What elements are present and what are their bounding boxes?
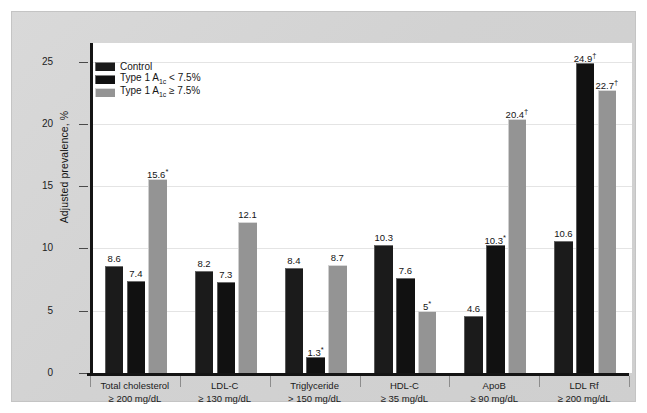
bar-value-label: 15.6*	[139, 167, 176, 180]
x-axis-category-label: ApoB≥ 90 mg/dL	[449, 380, 539, 405]
bar-control	[105, 266, 124, 373]
x-axis-category-label: LDL Rf≥ 200 mg/dL	[539, 380, 629, 405]
y-tick	[79, 124, 88, 125]
legend: Control Type 1 A1c < 7.5% Type 1 A1c ≥ 7…	[95, 60, 245, 99]
bar-value-label: 12.1	[229, 210, 266, 220]
x-axis-group-separator	[449, 376, 450, 387]
x-axis-group-separator	[629, 376, 630, 387]
legend-swatch-control	[95, 62, 115, 71]
y-tick-label: 15	[23, 181, 53, 191]
y-tick-label: 0	[23, 368, 53, 378]
y-tick	[79, 248, 88, 249]
bar-type1-high	[148, 179, 167, 373]
y-axis-title: Adjusted prevalence, %	[58, 67, 70, 267]
bar-type1-high	[418, 311, 437, 373]
x-axis-group-separator	[90, 376, 91, 387]
bar-value-label: 22.7†	[589, 78, 626, 91]
legend-item-control: Control	[95, 60, 245, 72]
bar-type1-low	[127, 281, 146, 373]
y-tick-label: 5	[23, 306, 53, 316]
bar-type1-low	[217, 282, 236, 373]
bar-value-label: 8.2	[186, 259, 223, 269]
bar-type1-high	[508, 119, 527, 373]
x-axis-category-label: Total cholesterol≥ 200 mg/dL	[90, 380, 180, 405]
legend-swatch-type1-high	[95, 88, 115, 97]
x-axis-group-separator	[180, 376, 181, 387]
chart-card: Adjusted prevalence, % 0510152025 8.67.4…	[11, 11, 636, 402]
bar-type1-low	[486, 245, 505, 373]
bar-value-label: 10.3	[365, 233, 402, 243]
y-tick	[79, 186, 88, 187]
figure-container: Adjusted prevalence, % 0510152025 8.67.4…	[0, 0, 647, 413]
y-tick-label: 25	[23, 57, 53, 67]
x-axis-line	[87, 373, 629, 376]
legend-label-control: Control	[120, 61, 152, 72]
x-axis-group-separator	[539, 376, 540, 387]
bar-value-label: 8.6	[96, 254, 133, 264]
y-tick-label: 20	[23, 119, 53, 129]
x-axis-group-separator	[270, 376, 271, 387]
bar-type1-low	[396, 278, 415, 373]
bar-control	[195, 271, 214, 373]
legend-label-type1-high: Type 1 A1c ≥ 7.5%	[120, 85, 200, 100]
bar-control	[374, 245, 393, 373]
bar-value-label: 5*	[409, 299, 446, 312]
bar-type1-high	[598, 90, 617, 373]
x-axis-category-label: Triglyceride> 150 mg/dL	[270, 380, 360, 405]
bar-value-label: 24.9†	[567, 51, 604, 64]
bar-type1-low	[576, 63, 595, 373]
x-axis-category-label: LDL-C≥ 130 mg/dL	[180, 380, 270, 405]
bar-value-label: 8.7	[319, 253, 356, 263]
bar-value-label: 20.4†	[499, 107, 536, 120]
legend-item-type1-low: Type 1 A1c < 7.5%	[95, 73, 245, 85]
y-tick	[79, 62, 88, 63]
bar-type1-low	[306, 357, 325, 373]
bar-type1-high	[238, 222, 257, 373]
bar-control	[554, 241, 573, 373]
bar-value-label: 7.6	[387, 266, 424, 276]
x-axis-group-separator	[360, 376, 361, 387]
y-tick	[79, 311, 88, 312]
x-axis-category-label: HDL-C≥ 35 mg/dL	[360, 380, 450, 405]
bar-value-label: 8.4	[276, 256, 313, 266]
bar-type1-high	[328, 265, 347, 373]
legend-swatch-type1-low	[95, 75, 115, 84]
y-tick-label: 10	[23, 243, 53, 253]
bar-control	[464, 316, 483, 373]
legend-item-type1-high: Type 1 A1c ≥ 7.5%	[95, 86, 245, 98]
